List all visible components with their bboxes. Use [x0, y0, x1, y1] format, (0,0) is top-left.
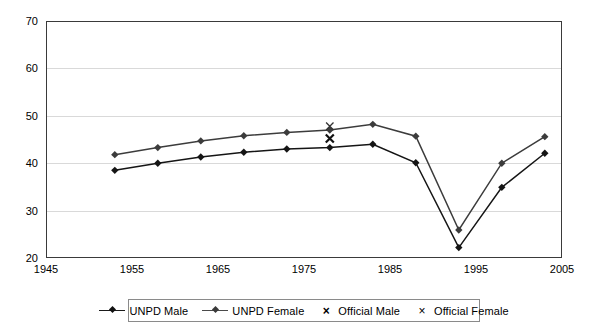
- diamond-marker-icon: [111, 167, 118, 174]
- diamond-marker-icon: [541, 133, 548, 140]
- diamond-marker-icon: [154, 144, 161, 151]
- legend-label: Official Male: [338, 305, 400, 317]
- diamond-marker-icon: [412, 159, 419, 166]
- series-line: [115, 124, 545, 230]
- diamond-marker-icon: [197, 153, 204, 160]
- legend-label: Official Female: [434, 305, 509, 317]
- diamond-marker-icon: [326, 126, 333, 133]
- diamond-marker-icon: [154, 160, 161, 167]
- legend-label: UNPD Male: [129, 305, 188, 317]
- diamond-marker-icon: [455, 226, 462, 233]
- line-diamond-marker-icon: [99, 306, 125, 316]
- diamond-marker-icon: [283, 129, 290, 136]
- diamond-marker-icon: [498, 160, 505, 167]
- diamond-marker-icon: [197, 137, 204, 144]
- diamond-marker-icon: [326, 144, 333, 151]
- x-bold-marker-icon: [326, 135, 334, 143]
- x-thin-marker-icon: ×: [414, 306, 430, 316]
- legend-item-unpd-male: UNPD Male: [99, 305, 188, 317]
- legend-item-official-female: × Official Female: [414, 305, 509, 317]
- x-bold-marker-icon: ×: [318, 306, 334, 316]
- line-chart: 203040506070 194519551965197519851995200…: [0, 0, 607, 334]
- diamond-marker-icon: [240, 149, 247, 156]
- diamond-marker-icon: [111, 151, 118, 158]
- diamond-marker-icon: [283, 145, 290, 152]
- legend-item-unpd-female: UNPD Female: [202, 305, 304, 317]
- data-series-layer: [0, 0, 607, 334]
- diamond-marker-icon: [240, 132, 247, 139]
- diamond-marker-icon: [412, 133, 419, 140]
- diamond-marker-icon: [369, 121, 376, 128]
- series-official-male: [326, 135, 334, 143]
- legend-item-official-male: × Official Male: [318, 305, 400, 317]
- legend-label: UNPD Female: [232, 305, 304, 317]
- diamond-marker-icon: [369, 141, 376, 148]
- chart-legend: UNPD Male UNPD Female × Official Male × …: [128, 299, 480, 322]
- series-unpd-male: [111, 141, 548, 252]
- line-diamond-marker-icon: [202, 306, 228, 316]
